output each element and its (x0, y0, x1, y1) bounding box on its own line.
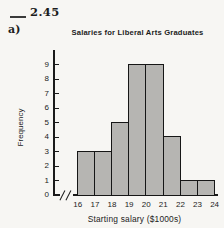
histogram-bar (111, 122, 130, 196)
y-axis-tick (55, 64, 59, 65)
x-tick-label: 16 (70, 200, 86, 209)
y-axis-tick (55, 137, 59, 138)
chart-title: Salaries for Liberal Arts Graduates (53, 28, 222, 37)
x-tick-label: 22 (172, 200, 188, 209)
y-tick-label: 5 (31, 118, 49, 128)
y-axis-tick (55, 108, 59, 109)
x-tick-label: 17 (87, 200, 103, 209)
y-tick-label: 9 (31, 60, 49, 70)
y-axis-title: Frequency (15, 98, 26, 158)
histogram-bar (145, 64, 164, 196)
y-tick-label: 6 (31, 103, 49, 113)
y-tick-label: 2 (31, 161, 49, 171)
histogram-bar (94, 151, 113, 196)
x-tick-label: 18 (104, 200, 120, 209)
x-tick-label: 24 (207, 200, 223, 209)
y-tick-label: 3 (31, 147, 49, 157)
exercise-number: 2.45 (30, 5, 60, 19)
y-axis-tick (55, 93, 59, 94)
x-tick-label: 23 (190, 200, 206, 209)
y-axis-tick (55, 180, 59, 181)
y-tick-label: 0 (31, 190, 49, 200)
x-axis-title: Starting salary ($1000s) (53, 214, 216, 224)
y-axis-tick (55, 166, 59, 167)
part-label: a) (8, 23, 20, 36)
y-axis-tick (55, 151, 59, 152)
histogram-bar (180, 180, 199, 196)
answer-blank-line (10, 16, 26, 18)
x-tick-label: 19 (121, 200, 137, 209)
y-tick-label: 8 (31, 74, 49, 84)
histogram-bar (163, 136, 182, 196)
y-tick-label: 7 (31, 89, 49, 99)
plot-area: Frequency 0123456789161718192021222324 (53, 50, 218, 196)
textbook-figure: 2.45 a) Salaries for Liberal Arts Gradua… (0, 0, 224, 228)
histogram-bar (77, 151, 96, 196)
y-axis-tick (55, 195, 59, 196)
y-axis-tick (55, 122, 59, 123)
x-tick-label: 21 (155, 200, 171, 209)
histogram-bar (128, 64, 147, 196)
histogram-bar (197, 180, 216, 196)
y-axis-tick (55, 79, 59, 80)
y-tick-label: 4 (31, 132, 49, 142)
y-tick-label: 1 (31, 176, 49, 186)
x-tick-label: 20 (138, 200, 154, 209)
